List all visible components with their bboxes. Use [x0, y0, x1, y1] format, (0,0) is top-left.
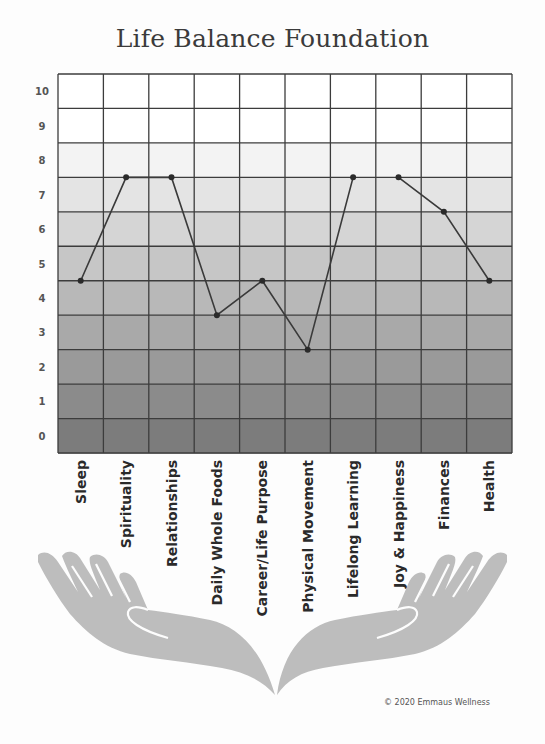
left-hand-icon	[38, 552, 275, 695]
y-tick-label: 9	[39, 121, 46, 132]
y-tick-label: 0	[39, 431, 46, 442]
data-point-marker	[305, 347, 311, 353]
x-tick-label: Relationships	[164, 460, 180, 567]
x-tick-label: Finances	[436, 460, 452, 530]
x-tick-label: Daily Whole Foods	[209, 460, 225, 605]
y-tick-label: 7	[39, 190, 46, 201]
data-point-marker	[169, 174, 175, 180]
data-point-marker	[441, 209, 447, 215]
x-tick-label: Joy & Happiness	[391, 460, 407, 589]
y-axis-labels: 012345678910	[35, 86, 49, 442]
copyright-text: © 2020 Emmaus Wellness	[384, 698, 490, 707]
chart-canvas: 012345678910 SleepSpiritualityRelationsh…	[0, 0, 545, 744]
data-point-marker	[214, 312, 220, 318]
data-point-marker	[396, 174, 402, 180]
data-point-marker	[350, 174, 356, 180]
x-tick-label: Physical Movement	[300, 460, 316, 613]
y-tick-label: 6	[39, 224, 46, 235]
y-tick-label: 8	[39, 155, 46, 166]
x-tick-label: Sleep	[73, 460, 89, 504]
x-tick-label: Career/Life Purpose	[254, 460, 270, 616]
x-tick-label: Health	[481, 460, 497, 512]
y-tick-label: 2	[39, 362, 46, 373]
data-point-marker	[486, 278, 492, 284]
x-tick-label: Lifelong Learning	[345, 460, 361, 598]
y-tick-label: 3	[39, 327, 46, 338]
data-point-marker	[123, 174, 129, 180]
y-tick-label: 10	[35, 86, 49, 97]
data-point-marker	[78, 278, 84, 284]
y-tick-label: 4	[39, 293, 46, 304]
data-point-marker	[259, 278, 265, 284]
y-tick-label: 1	[39, 396, 46, 407]
y-tick-label: 5	[39, 259, 46, 270]
x-tick-label: Spirituality	[118, 460, 134, 548]
